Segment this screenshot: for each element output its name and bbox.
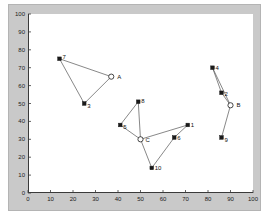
node-label: 2 — [225, 91, 228, 97]
cluster-center-label: C — [146, 137, 150, 143]
plot-svg — [0, 0, 269, 220]
edge-line — [213, 68, 222, 93]
x-tick-label: 100 — [243, 196, 263, 202]
node-label: 10 — [155, 165, 162, 171]
node-marker — [220, 91, 224, 95]
y-tick-label: 30 — [5, 136, 25, 142]
cluster-center-label: B — [237, 102, 241, 108]
x-tick-label: 60 — [153, 196, 173, 202]
y-tick-label: 50 — [5, 101, 25, 107]
node-marker — [118, 123, 122, 127]
node-label: 1 — [191, 122, 194, 128]
cluster-center-label: A — [117, 74, 121, 80]
edge-line — [60, 59, 112, 77]
node-label: 7 — [63, 54, 66, 60]
x-tick-label: 70 — [176, 196, 196, 202]
node-marker — [82, 102, 86, 106]
node-marker — [136, 100, 140, 104]
edge-line — [120, 102, 138, 125]
node-marker — [220, 136, 224, 140]
edge-line — [138, 102, 140, 140]
edge-line — [141, 139, 152, 168]
markers-group — [58, 57, 233, 170]
figure-container: 0102030405060708090100010203040506070809… — [0, 0, 269, 220]
node-label: 9 — [225, 137, 228, 143]
x-tick-label: 80 — [198, 196, 218, 202]
y-tick-label: 40 — [5, 118, 25, 124]
x-tick-label: 90 — [221, 196, 241, 202]
edge-line — [222, 105, 231, 137]
cluster-center-marker — [109, 74, 114, 79]
cluster-center-marker — [228, 103, 233, 108]
edge-line — [60, 59, 85, 104]
x-tick-label: 0 — [18, 196, 38, 202]
node-marker — [172, 136, 176, 140]
y-tick-label: 100 — [5, 11, 25, 17]
x-tick-label: 30 — [86, 196, 106, 202]
node-label: 3 — [87, 103, 90, 109]
node-label: 6 — [177, 135, 180, 141]
node-label: 4 — [216, 65, 219, 71]
edge-line — [152, 138, 175, 168]
y-tick-label: 20 — [5, 154, 25, 160]
y-tick-label: 90 — [5, 29, 25, 35]
node-label: 5 — [123, 124, 126, 130]
x-tick-label: 10 — [41, 196, 61, 202]
y-tick-label: 80 — [5, 47, 25, 53]
cluster-center-marker — [138, 137, 143, 142]
node-marker — [186, 123, 190, 127]
node-marker — [58, 57, 62, 61]
node-label: 8 — [141, 98, 144, 104]
y-tick-label: 10 — [5, 172, 25, 178]
node-marker — [211, 66, 215, 70]
y-tick-label: 60 — [5, 83, 25, 89]
node-marker — [150, 166, 154, 170]
edges-group — [60, 59, 231, 168]
edge-line — [84, 77, 111, 104]
x-tick-label: 20 — [63, 196, 83, 202]
x-tick-label: 50 — [131, 196, 151, 202]
x-tick-label: 40 — [108, 196, 128, 202]
edge-line — [213, 68, 231, 106]
y-tick-label: 70 — [5, 65, 25, 71]
